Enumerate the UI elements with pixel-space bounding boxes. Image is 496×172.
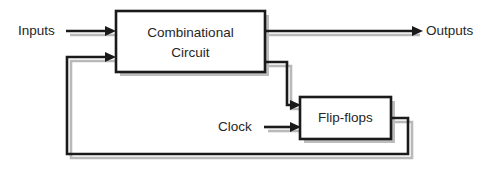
combinational-circuit-label-line1: Combinational	[147, 25, 233, 40]
clock-label: Clock	[218, 119, 252, 134]
combinational-circuit-label-line2: Circuit	[171, 45, 210, 60]
comb-to-ff-wire-shadow	[269, 66, 302, 109]
diagram-canvas: Combinational Circuit Flip-flops Inputs …	[0, 0, 496, 172]
inputs-label: Inputs	[18, 23, 55, 38]
combinational-circuit-box[interactable]	[116, 11, 265, 72]
block-diagram: Combinational Circuit Flip-flops Inputs …	[0, 0, 496, 172]
outputs-label: Outputs	[426, 23, 474, 38]
flip-flops-label: Flip-flops	[318, 110, 373, 125]
